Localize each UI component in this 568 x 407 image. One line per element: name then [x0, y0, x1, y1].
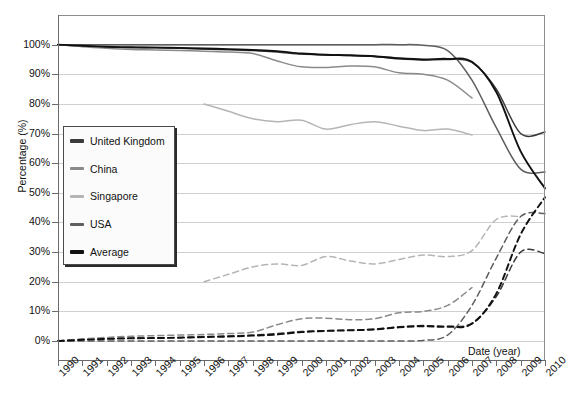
- x-tick-label: 1996: [202, 353, 227, 378]
- y-tick-label: 30%: [0, 246, 50, 256]
- x-tick-mark: [399, 360, 400, 366]
- x-tick-mark: [545, 360, 546, 366]
- series-line: [58, 45, 545, 137]
- plot-border-top: [58, 15, 545, 16]
- y-tick-label: 10%: [0, 305, 50, 315]
- legend: United KingdomChinaSingaporeUSAAverage: [63, 126, 175, 265]
- y-tick-label: 20%: [0, 276, 50, 286]
- y-tick-mark: [52, 252, 58, 253]
- x-tick-label: 1992: [105, 353, 130, 378]
- legend-item-label: China: [90, 163, 117, 175]
- y-tick-mark: [52, 341, 58, 342]
- y-tick-mark: [52, 104, 58, 105]
- x-tick-mark: [521, 360, 522, 366]
- series-line: [58, 45, 472, 98]
- series-line: [204, 104, 472, 135]
- x-axis-title: Date (year): [468, 345, 521, 357]
- x-tick-mark: [180, 360, 181, 366]
- legend-swatch-icon: [70, 139, 84, 143]
- x-tick-label: 2007: [470, 353, 495, 378]
- y-tick-mark: [52, 134, 58, 135]
- x-tick-mark: [253, 360, 254, 366]
- legend-item-singapore[interactable]: Singapore: [64, 183, 174, 211]
- x-tick-label: 2010: [543, 353, 568, 378]
- x-tick-mark: [375, 360, 376, 366]
- legend-item-average[interactable]: Average: [64, 238, 174, 266]
- y-axis-line: [58, 15, 59, 360]
- y-tick-mark: [52, 45, 58, 46]
- legend-item-label: Singapore: [90, 190, 138, 202]
- legend-swatch-icon: [70, 167, 84, 170]
- x-tick-label: 2000: [300, 353, 325, 378]
- x-tick-label: 2002: [348, 353, 373, 378]
- y-tick-label: 0%: [0, 335, 50, 345]
- x-tick-mark: [326, 360, 327, 366]
- series-line: [204, 216, 521, 282]
- y-tick-label: 90%: [0, 68, 50, 78]
- y-tick-mark: [52, 222, 58, 223]
- x-tick-label: 1990: [56, 353, 81, 378]
- x-tick-label: 2004: [397, 353, 422, 378]
- x-tick-label: 2006: [446, 353, 471, 378]
- y-axis-title: Percentage (%): [16, 106, 28, 206]
- legend-swatch-icon: [70, 250, 84, 254]
- x-tick-mark: [448, 360, 449, 366]
- series-line: [58, 288, 472, 341]
- legend-item-label: USA: [90, 218, 112, 230]
- x-tick-label: 1991: [80, 353, 105, 378]
- legend-item-usa[interactable]: USA: [64, 210, 174, 238]
- x-tick-label: 2009: [519, 353, 544, 378]
- legend-swatch-icon: [70, 223, 84, 227]
- x-tick-label: 1997: [226, 353, 251, 378]
- x-tick-label: 2008: [494, 353, 519, 378]
- x-tick-mark: [472, 360, 473, 366]
- y-tick-mark: [52, 163, 58, 164]
- legend-swatch-icon: [70, 195, 84, 198]
- y-tick-label: 40%: [0, 216, 50, 226]
- x-tick-label: 1995: [178, 353, 203, 378]
- x-tick-label: 1993: [129, 353, 154, 378]
- x-tick-label: 1999: [275, 353, 300, 378]
- y-tick-mark: [52, 193, 58, 194]
- legend-item-label: United Kingdom: [90, 135, 165, 147]
- x-tick-label: 2005: [421, 353, 446, 378]
- legend-item-china[interactable]: China: [64, 155, 174, 183]
- x-tick-label: 1998: [251, 353, 276, 378]
- y-tick-mark: [52, 311, 58, 312]
- x-tick-label: 2003: [373, 353, 398, 378]
- y-tick-mark: [52, 282, 58, 283]
- x-tick-mark: [58, 360, 59, 366]
- x-tick-mark: [302, 360, 303, 366]
- x-tick-label: 2001: [324, 353, 349, 378]
- chart-title-cut-off: [0, 0, 563, 3]
- x-tick-label: 1994: [153, 353, 178, 378]
- y-tick-label: 100%: [0, 39, 50, 49]
- x-tick-mark: [107, 360, 108, 366]
- y-tick-mark: [52, 74, 58, 75]
- legend-item-label: Average: [90, 246, 129, 258]
- plot-border-right: [544, 15, 545, 360]
- x-tick-mark: [131, 360, 132, 366]
- legend-item-united-kingdom[interactable]: United Kingdom: [64, 127, 174, 155]
